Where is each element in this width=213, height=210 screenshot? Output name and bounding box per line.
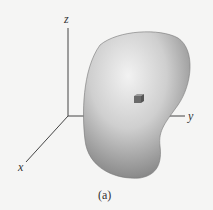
x-axis-label: x [18, 160, 23, 175]
y-axis-label: y [188, 109, 193, 124]
x-axis [26, 116, 68, 162]
diagram-canvas [0, 0, 213, 210]
3d-body [84, 32, 191, 178]
figure-caption: (a) [98, 188, 111, 203]
volume-element-cube [134, 94, 144, 103]
figure: z y x (a) [0, 0, 213, 210]
z-axis-label: z [64, 12, 69, 27]
